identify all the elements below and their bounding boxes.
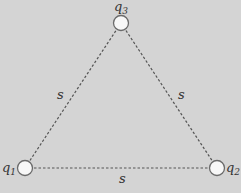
label-side-right: s	[178, 87, 185, 102]
label-side-bottom: s	[119, 171, 126, 186]
label-q1: q1	[2, 160, 16, 177]
side-q3-q2	[121, 23, 217, 168]
triangle-charge-diagram: q3 q1 q2 s s s	[0, 0, 241, 193]
charge-q1	[18, 161, 33, 176]
side-q1-q3	[25, 23, 121, 168]
label-q3: q3	[114, 0, 128, 16]
charge-q3	[114, 16, 129, 31]
charge-q2	[210, 161, 225, 176]
label-q2: q2	[226, 160, 240, 177]
diagram-canvas: q3 q1 q2 s s s	[0, 0, 241, 193]
label-side-left: s	[57, 87, 64, 102]
